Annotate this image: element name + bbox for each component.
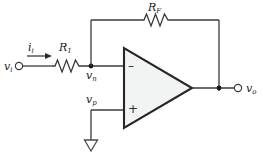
label-source-voltage: vi (4, 61, 12, 72)
opamp-triangle (124, 48, 192, 128)
label-input-current: ii (28, 42, 34, 53)
opamp-body (124, 48, 192, 128)
noninverting-ground-branch (85, 110, 125, 151)
feedback-resistor-symbol (141, 14, 176, 26)
ground-icon (85, 140, 98, 151)
inverting-input-sign: – (128, 60, 134, 72)
label-noninverting-node: vp (86, 94, 97, 105)
output-terminal-circle (234, 84, 241, 91)
output-branch (192, 84, 242, 91)
output-node-junction-dot (217, 86, 222, 91)
input-terminal-circle (15, 62, 22, 69)
noninverting-input-sign: + (128, 103, 138, 115)
label-feedback-resistor: RF (148, 2, 161, 13)
circuit-schematic-canvas (0, 0, 263, 163)
label-output-voltage: vo (246, 83, 256, 94)
input-branch (15, 53, 124, 72)
circuit-diagram: vi ii R1 RF vn vp vo – + (0, 0, 263, 163)
label-inverting-node: vn (86, 70, 97, 81)
input-resistor-symbol (52, 60, 88, 72)
label-input-resistor: R1 (59, 42, 72, 53)
